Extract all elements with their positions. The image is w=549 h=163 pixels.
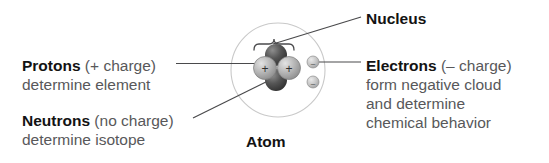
electrons-description-line-2: form negative cloud: [366, 75, 501, 95]
protons-description: determine element: [22, 75, 150, 95]
atom-caption: Atom: [246, 133, 286, 151]
protons-keyword: Protons: [22, 57, 81, 74]
nucleus-label: Nucleus: [366, 9, 426, 29]
electrons-description-line-3: and determine: [366, 94, 465, 114]
neutrons-leader-line: [193, 79, 272, 118]
neutrons-description: determine isotope: [22, 130, 145, 150]
neutrons-keyword: Neutrons: [22, 112, 90, 129]
electrons-label: Electrons (– charge): [366, 56, 512, 76]
electrons-keyword: Electrons: [366, 57, 437, 74]
proton-right-sign: +: [285, 62, 292, 76]
electrons-description-line-4: chemical behavior: [366, 113, 491, 133]
nucleus-leader-line: [273, 17, 361, 44]
electron-upper-sign: –: [311, 59, 316, 68]
atom-diagram: + + – – Protons (+ charge) determine ele…: [0, 0, 549, 163]
electrons-qualifier: (– charge): [437, 57, 512, 74]
proton-left-sign: +: [261, 62, 268, 76]
protons-label: Protons (+ charge): [22, 56, 156, 76]
neutrons-qualifier: (no charge): [90, 112, 174, 129]
neutrons-label: Neutrons (no charge): [22, 111, 174, 131]
electron-lower-sign: –: [311, 79, 316, 88]
protons-qualifier: (+ charge): [81, 57, 156, 74]
